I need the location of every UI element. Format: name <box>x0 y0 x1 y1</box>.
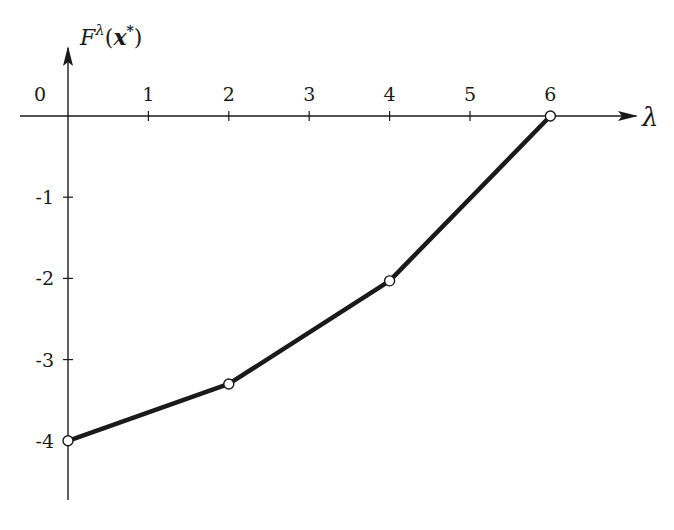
data-point-marker <box>385 276 395 286</box>
x-tick-label: 3 <box>303 83 315 105</box>
x-tick-label: 4 <box>384 83 396 105</box>
chart-canvas: 0123456 -1-2-3-4 λ Fλ(x*) <box>0 0 674 530</box>
x-tick-label: 5 <box>464 83 476 105</box>
data-point-marker <box>545 111 555 121</box>
data-series <box>63 111 555 446</box>
data-point-marker <box>63 436 73 446</box>
x-tick-label: 2 <box>223 83 235 105</box>
x-tick-label: 6 <box>544 83 556 105</box>
series-line <box>68 116 550 441</box>
x-tick-label: 1 <box>142 83 154 105</box>
y-tick-label: -3 <box>35 349 54 371</box>
y-tick-label: -4 <box>35 430 54 452</box>
y-axis-title: Fλ(x*) <box>79 21 142 50</box>
x-tick-label: 0 <box>34 83 46 105</box>
x-axis-title: λ <box>641 102 658 132</box>
data-point-marker <box>224 379 234 389</box>
y-tick-label: -1 <box>35 186 54 208</box>
y-tick-label: -2 <box>35 267 54 289</box>
